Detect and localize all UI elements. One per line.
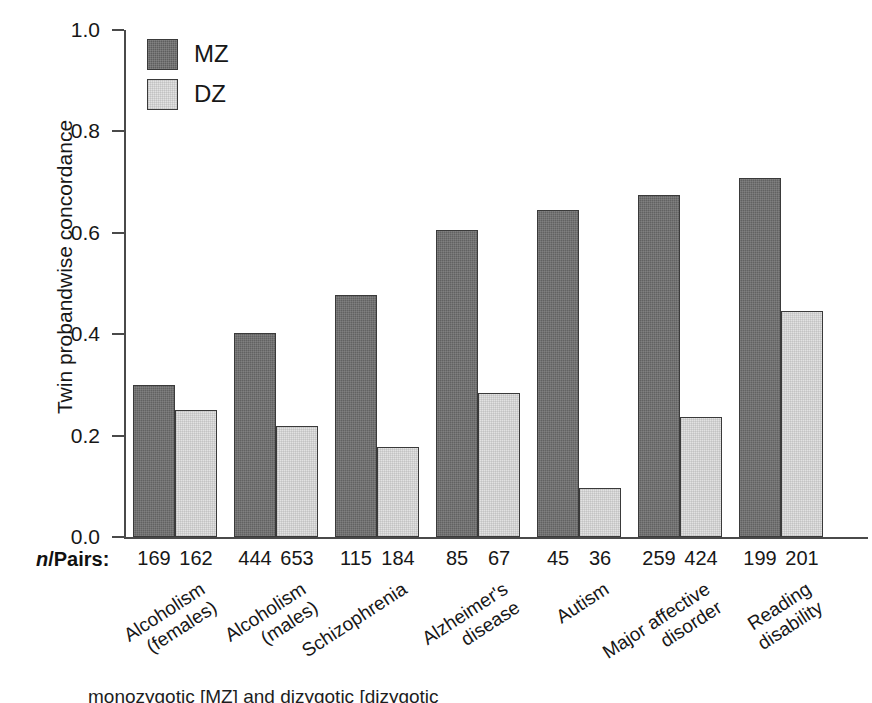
bar-dz-1	[276, 426, 318, 537]
y-axis-tick-label: 0.8	[44, 120, 100, 141]
bar-mz-0	[133, 385, 175, 537]
y-axis-title: Twin probandwise concordance	[53, 52, 77, 482]
npairs-value-dz-4: 36	[579, 548, 621, 568]
bar-mz-5	[638, 195, 680, 537]
bar-dz-3	[478, 393, 520, 537]
bar-dz-4	[579, 488, 621, 537]
npairs-label-rest: /Pairs:	[48, 548, 109, 570]
bar-mz-1	[234, 333, 276, 537]
bar-dz-0	[175, 410, 217, 537]
y-axis-tick-label: 1.0	[44, 19, 100, 40]
npairs-value-dz-2: 184	[377, 548, 419, 568]
y-axis-tick-label: 0.2	[44, 425, 100, 446]
figure-caption: monozygotic [MZ] and dizygotic [dizygoti…	[88, 686, 872, 703]
twin-concordance-bar-chart: Twin probandwise concordance 0.00.20.40.…	[0, 0, 872, 703]
y-axis-tick-label: 0.4	[44, 323, 100, 344]
npairs-row-label: n/Pairs:	[36, 548, 109, 571]
npairs-value-mz-6: 199	[739, 548, 781, 568]
bar-mz-3	[436, 230, 478, 537]
y-axis-tick	[112, 232, 124, 234]
npairs-value-mz-3: 85	[436, 548, 478, 568]
npairs-value-mz-1: 444	[234, 548, 276, 568]
bar-dz-2	[377, 447, 419, 537]
npairs-value-mz-4: 45	[537, 548, 579, 568]
npairs-value-dz-3: 67	[478, 548, 520, 568]
npairs-value-mz-0: 169	[133, 548, 175, 568]
y-axis-tick	[112, 536, 124, 538]
y-axis-tick-label: 0.6	[44, 222, 100, 243]
npairs-value-dz-0: 162	[175, 548, 217, 568]
x-axis-line	[124, 537, 868, 539]
bar-mz-2	[335, 295, 377, 537]
bar-dz-6	[781, 311, 823, 537]
y-axis-tick	[112, 333, 124, 335]
npairs-value-mz-2: 115	[335, 548, 377, 568]
npairs-value-dz-5: 424	[680, 548, 722, 568]
bar-mz-6	[739, 178, 781, 537]
y-axis-tick	[112, 29, 124, 31]
y-axis-tick-label: 0.0	[44, 526, 100, 547]
npairs-value-mz-5: 259	[638, 548, 680, 568]
npairs-value-dz-6: 201	[781, 548, 823, 568]
bar-mz-4	[537, 210, 579, 537]
y-axis-tick	[112, 435, 124, 437]
x-axis-category-label-3: Alzheimer's disease	[324, 578, 524, 703]
npairs-value-dz-1: 653	[276, 548, 318, 568]
bar-dz-5	[680, 417, 722, 537]
plot-area	[126, 30, 868, 537]
y-axis-tick	[112, 130, 124, 132]
npairs-label-italic-n: n	[36, 548, 48, 570]
